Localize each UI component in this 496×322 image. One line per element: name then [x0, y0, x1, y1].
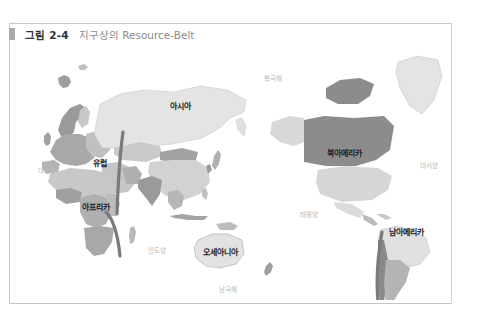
- svalbard: [58, 75, 71, 88]
- usa: [316, 166, 392, 202]
- caribbean: [376, 214, 392, 220]
- greenland: [396, 56, 442, 114]
- label-atlantic-west: 대서양: [38, 165, 56, 175]
- figure-frame-right-edge: [451, 23, 452, 302]
- world-map: [10, 44, 450, 300]
- new-guinea: [216, 222, 238, 230]
- figure-number: 그림 2-4: [25, 27, 69, 42]
- uk: [44, 132, 51, 146]
- indonesia: [170, 214, 208, 220]
- label-europe: 유럽: [93, 157, 107, 168]
- arctic-islands: [326, 78, 374, 104]
- label-south-america: 남아메리카: [389, 226, 424, 237]
- label-atlantic-east: 대서양: [420, 160, 438, 170]
- label-africa: 아프리카: [82, 201, 110, 212]
- madagascar: [129, 226, 136, 244]
- south-america-south: [384, 260, 410, 300]
- india: [138, 176, 162, 206]
- label-indian-ocean: 인도양: [148, 245, 166, 255]
- canada: [304, 116, 394, 166]
- figure-caption: 그림 2-4 지구상의 Resource-Belt: [25, 27, 194, 41]
- kamchatka: [236, 118, 246, 136]
- mexico: [334, 202, 364, 218]
- figure-title: 지구상의 Resource-Belt: [79, 27, 195, 42]
- central-america: [362, 214, 378, 226]
- label-asia: 아시아: [170, 100, 191, 111]
- russia: [94, 86, 246, 148]
- label-oceania: 오세아니아: [203, 246, 238, 257]
- label-southern-ocean: 남극해: [219, 284, 237, 294]
- caption-marker: [9, 28, 15, 40]
- southern-africa: [84, 226, 114, 256]
- new-zealand: [264, 262, 273, 276]
- japan: [212, 150, 221, 170]
- label-pacific-ocean: 태평양: [300, 209, 318, 219]
- philippines: [202, 188, 208, 200]
- label-north-america: 북아메리카: [327, 147, 362, 158]
- alaska: [270, 116, 304, 146]
- label-arctic-ocean: 북극해: [264, 73, 282, 83]
